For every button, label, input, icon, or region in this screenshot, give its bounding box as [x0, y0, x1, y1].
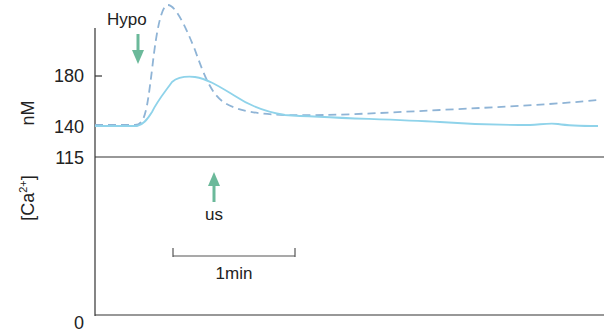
us-arrow-up-icon: [208, 172, 220, 202]
svg-text:[Ca2+]: [Ca2+]: [17, 175, 38, 221]
hypo-arrow-down-icon: [132, 34, 144, 64]
y-tick-label-0: 0: [74, 313, 84, 333]
time-scale-bar: [173, 248, 295, 257]
hypo-label: Hypo: [107, 10, 147, 29]
y-tick-label-140: 140: [54, 117, 84, 137]
y-axis-unit: nM: [18, 100, 38, 125]
solid-series: [95, 77, 598, 126]
scale-bar-label: 1min: [216, 264, 253, 283]
y-axis-label: [Ca2+]: [17, 175, 38, 221]
y-tick-label-115: 115: [55, 148, 84, 168]
ion-charge: 2+: [17, 180, 29, 193]
bracket-close: ]: [18, 175, 38, 180]
y-tick-label-180: 180: [54, 66, 84, 86]
us-label: us: [205, 205, 223, 224]
ion-symbol: Ca: [18, 192, 38, 216]
calcium-trace-chart: 180 140 115 0 nM [Ca2+] Hypo us 1min: [0, 0, 608, 334]
dashed-series: [95, 5, 598, 125]
